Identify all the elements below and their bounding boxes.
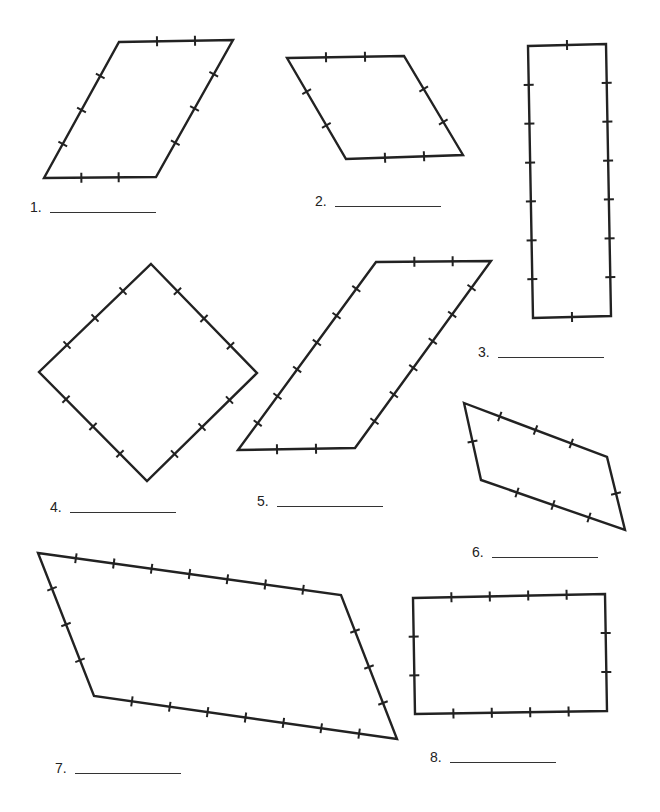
shape-outline [413,594,607,714]
answer-blank[interactable] [335,205,441,207]
tick-mark [302,585,303,595]
item-number: 4. [50,500,62,514]
tick-mark [468,440,478,442]
item-number: 8. [430,750,442,764]
worksheet-canvas [0,0,660,812]
answer-blank[interactable] [50,211,156,213]
tick-mark [75,553,76,563]
quadrilateral-3 [524,40,616,322]
tick-mark [189,569,190,579]
quadrilateral-1 [44,36,233,183]
answer-blank[interactable] [277,505,383,507]
item-number: 6. [472,545,484,559]
tick-mark [207,707,208,717]
tick-mark [227,574,228,584]
quadrilateral-8 [409,590,612,719]
item-number: 1. [30,200,42,214]
tick-mark [265,580,266,590]
answer-blank[interactable] [70,511,176,513]
answer-item-7: 7. [55,761,181,775]
item-number: 3. [478,345,490,359]
shape-outline [39,264,257,481]
shape-outline [528,44,611,318]
answer-item-3: 3. [478,345,604,359]
answer-blank[interactable] [498,356,604,358]
quadrilateral-4 [39,264,257,481]
answer-blank[interactable] [492,556,598,558]
shape-outline [238,261,491,450]
answer-item-1: 1. [30,200,156,214]
item-number: 5. [257,494,269,508]
answer-item-6: 6. [472,545,598,559]
tick-mark [169,702,171,712]
shape-outline [38,553,397,739]
tick-mark [151,564,152,574]
shape-outline [464,403,625,530]
shape-outline [44,40,233,178]
tick-mark [358,729,359,739]
answer-blank[interactable] [75,772,181,774]
shape-outline [287,56,463,159]
answer-item-5: 5. [257,494,383,508]
quadrilateral-7 [38,553,397,739]
tick-mark [113,559,114,569]
tick-mark [321,723,323,733]
item-number: 7. [55,761,67,775]
answer-item-8: 8. [430,750,556,764]
tick-mark [245,713,246,723]
tick-mark [131,696,132,706]
answer-item-2: 2. [315,194,441,208]
item-number: 2. [315,194,327,208]
answer-blank[interactable] [450,761,556,763]
quadrilateral-6 [464,403,625,530]
tick-mark [611,492,621,494]
quadrilateral-2 [287,52,463,163]
quadrilateral-5 [238,256,491,454]
tick-mark [283,718,284,728]
answer-item-4: 4. [50,500,176,514]
